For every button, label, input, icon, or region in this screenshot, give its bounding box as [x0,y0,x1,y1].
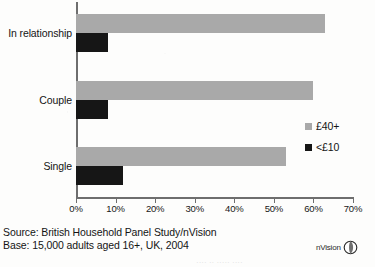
legend-swatch-under10 [305,144,312,151]
x-tick-label-30: 30% [185,203,203,214]
legend-item-under10[interactable]: <£10 [305,141,339,153]
nvision-logo: nVision [316,240,358,255]
x-tick-label-40: 40% [225,203,243,214]
footer-notes: Source: British Household Panel Study/nV… [3,226,217,252]
x-tick-label-10: 10% [106,203,124,214]
legend-item-40plus[interactable]: £40+ [305,120,339,132]
x-tick-label-20: 20% [146,203,164,214]
nvision-circle-icon [343,240,358,255]
bar-single-under10 [76,166,123,185]
bar-in-relationship-40plus [76,14,325,33]
bar-couple-40plus [76,81,313,100]
x-tick-label-60: 60% [304,203,322,214]
chart-figure: 0%10%20%30%40%50%60%70% In relationshipC… [0,0,375,267]
bar-in-relationship-under10 [76,33,108,52]
x-tick-label-50: 50% [265,203,283,214]
base-line: Base: 15,000 adults aged 16+, UK, 2004 [3,239,217,252]
legend: £40+ <£10 [305,120,339,162]
legend-swatch-40plus [305,123,312,130]
bar-single-40plus [76,147,286,166]
legend-label-under10: <£10 [316,141,339,153]
nvision-logo-text: nVision [316,243,341,252]
category-label-single: Single [43,160,72,172]
clipped-bottom-text: ···· ·· ····· ···· [196,258,243,265]
bar-couple-under10 [76,100,108,119]
legend-label-40plus: £40+ [316,120,339,132]
x-tick-label-70: 70% [344,203,362,214]
plot-area: 0%10%20%30%40%50%60%70% In relationshipC… [0,0,375,215]
x-tick-label-0: 0% [69,203,82,214]
source-line: Source: British Household Panel Study/nV… [3,226,217,239]
category-label-in-relationship: In relationship [8,27,72,39]
category-label-couple: Couple [39,94,72,106]
x-axis-line [76,197,354,199]
